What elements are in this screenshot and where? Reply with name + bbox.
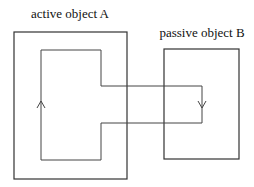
control-flow-loop (41, 50, 202, 160)
active-object-a-box (14, 32, 127, 179)
diagram-canvas: active object A passive object B (0, 0, 254, 187)
object-b-label: passive object B (159, 25, 245, 40)
object-a-label: active object A (31, 6, 110, 21)
